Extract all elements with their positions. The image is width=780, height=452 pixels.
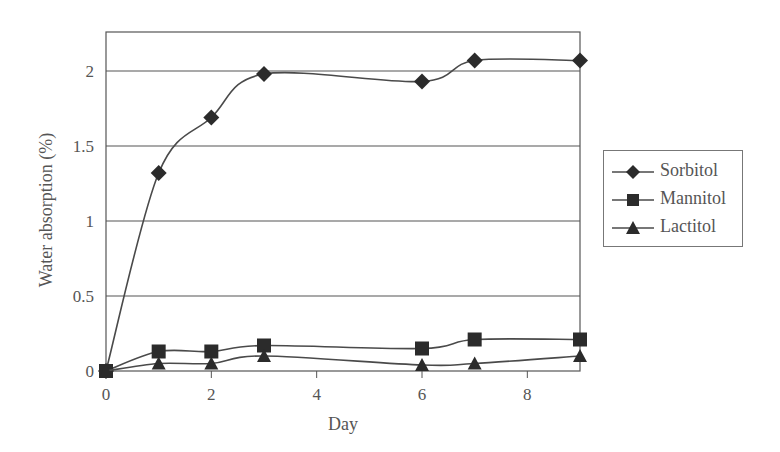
y-tick-label: 1: [86, 212, 95, 231]
series-lactitol: [99, 349, 587, 377]
diamond-marker: [256, 66, 272, 82]
square-marker: [152, 345, 166, 359]
triangle-marker: [573, 349, 587, 362]
grid-lines: [106, 71, 580, 296]
axes: [106, 32, 580, 378]
square-marker: [468, 333, 482, 347]
legend-item-lactitol: Lactitol: [604, 215, 742, 241]
tick-labels: 0246800.511.52: [73, 62, 532, 404]
plot-frame: [106, 32, 580, 371]
x-tick-label: 6: [418, 385, 427, 404]
square-marker: [573, 333, 587, 347]
legend-item-sorbitol: Sorbitol: [604, 159, 742, 185]
y-tick-label: 0.5: [73, 287, 94, 306]
diamond-marker: [467, 53, 483, 69]
x-tick-label: 2: [207, 385, 216, 404]
diamond-marker: [572, 53, 588, 69]
legend-label: Lactitol: [660, 216, 716, 237]
legend-label: Mannitol: [660, 188, 726, 209]
series-line: [106, 339, 580, 371]
series-sorbitol: [98, 53, 588, 380]
triangle-icon: [612, 215, 654, 241]
legend: Sorbitol Mannitol Lactitol: [603, 150, 743, 247]
legend-label: Sorbitol: [660, 160, 718, 181]
y-tick-label: 0: [86, 362, 95, 381]
series-lines: [98, 53, 588, 380]
series-line: [106, 356, 580, 371]
x-tick-label: 0: [102, 385, 111, 404]
diamond-marker: [414, 74, 430, 90]
y-axis-title: Water absorption (%): [36, 133, 57, 288]
square-marker: [204, 345, 218, 359]
diamond-icon: [612, 159, 654, 185]
diamond-marker: [151, 165, 167, 181]
series-line: [106, 59, 580, 371]
square-marker: [415, 342, 429, 356]
y-tick-label: 2: [86, 62, 95, 81]
legend-item-mannitol: Mannitol: [604, 187, 742, 213]
y-tick-label: 1.5: [73, 137, 94, 156]
x-tick-label: 8: [523, 385, 532, 404]
x-tick-label: 4: [312, 385, 321, 404]
square-icon: [612, 187, 654, 213]
x-axis-title: Day: [328, 414, 358, 434]
